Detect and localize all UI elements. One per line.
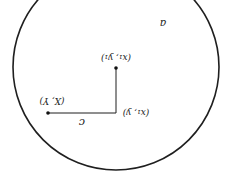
segment-c-label: c [79, 116, 85, 129]
outer-point-label: (X, Y) [39, 96, 65, 106]
diagram-canvas: (x₁, y₁) (X, Y) (x₁, y) c a [0, 0, 248, 196]
circle-radius-label: a [160, 17, 167, 30]
circle-diagram: (x₁, y₁) (X, Y) (x₁, y) c a [0, 0, 248, 196]
center-point-dot [114, 66, 118, 70]
corner-point-label: (x₁, y) [122, 108, 149, 118]
outer-point-dot [46, 111, 50, 115]
center-point-label: (x₁, y₁) [100, 53, 131, 63]
